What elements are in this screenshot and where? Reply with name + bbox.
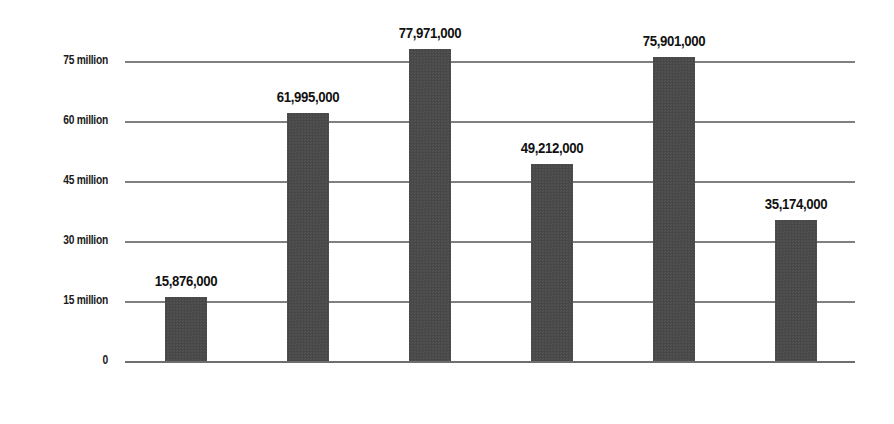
y-axis-tick-30-million: 30 million [0,234,108,247]
bar-value-recession: 15,876,000 [107,273,265,288]
bar-value-older-americans: 35,174,000 [717,196,875,211]
bar-igeneration [287,113,329,361]
y-axis-tick-zero: 0 [0,354,108,367]
y-axis-tick-60-million: 60 million [0,114,108,127]
bar-generation-x [531,164,573,361]
bar-value-igeneration: 61,995,000 [229,89,387,104]
bar-baby-boomers [653,57,695,361]
bar-millenials [409,49,451,361]
y-axis-tick-45-million: 45 million [0,174,108,187]
bar-chart-figure: 75 million 60 million 45 million 30 mill… [0,0,894,424]
bar-value-generation-x: 49,212,000 [473,140,631,155]
bar-series: 15,876,000 Recession 61,995,000 iGenerat… [125,0,855,424]
bar-older-americans [775,220,817,361]
y-axis-tick-15-million: 15 million [0,294,108,307]
bar-value-millenials: 77,971,000 [351,25,509,40]
y-axis-tick-75-million: 75 million [0,54,108,67]
bar-recession [165,297,207,361]
bar-value-baby-boomers: 75,901,000 [595,33,753,48]
